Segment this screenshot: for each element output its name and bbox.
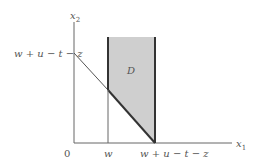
region-label: D (127, 66, 135, 76)
region-d (108, 37, 155, 143)
x-axis-label: x1 (236, 139, 246, 152)
origin-label: 0 (64, 149, 70, 159)
diagram-canvas (0, 0, 258, 163)
y-intercept-label: w + u − t − z (14, 49, 83, 59)
x-tick-w-label: w (104, 149, 113, 159)
x-tick-end-label: w + u − t − z (140, 149, 209, 159)
y-axis-label: x2 (70, 11, 80, 24)
